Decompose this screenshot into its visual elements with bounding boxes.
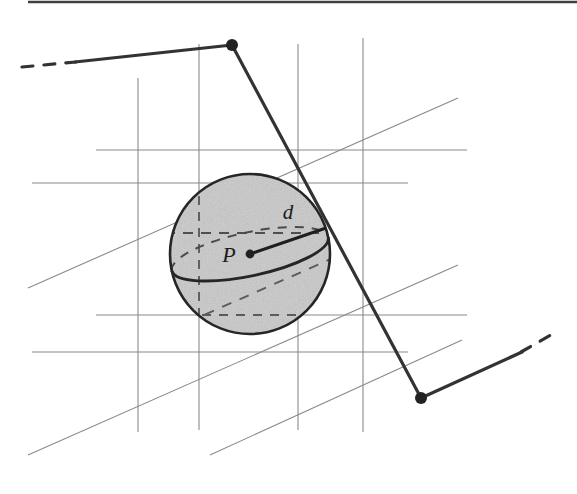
center-point-dot [246,250,255,259]
ray-vertex-dot [226,39,238,51]
sphere-polyline-diagram: P d [0,0,577,494]
figure-canvas: P d [0,0,577,494]
ray-vertex-dot [415,392,427,404]
center-point-label: P [221,242,235,267]
radius-label: d [283,200,294,224]
